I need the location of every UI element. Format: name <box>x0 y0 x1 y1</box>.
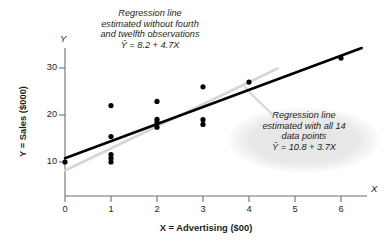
data-point <box>154 120 159 125</box>
data-point <box>108 134 113 139</box>
data-point <box>200 117 205 122</box>
x-tick-label-2: 2 <box>147 204 167 214</box>
data-point <box>200 122 205 127</box>
y-tick-label-20: 20 <box>37 109 57 119</box>
data-point <box>200 84 205 89</box>
data-point <box>246 80 251 85</box>
annotation-callout: Regression line estimated with all 14 da… <box>236 110 372 153</box>
y-axis-title: Y = Sales ($000) <box>17 62 28 182</box>
x-tick-label-3: 3 <box>193 204 213 214</box>
annotation-top: Regression line estimated without fourth… <box>74 8 226 51</box>
data-point <box>338 56 343 61</box>
x-tick-label-5: 5 <box>285 204 305 214</box>
y-tick-label-10: 10 <box>37 156 57 166</box>
x-tick-label-6: 6 <box>331 204 351 214</box>
data-point <box>108 159 113 164</box>
data-point <box>108 103 113 108</box>
data-point <box>154 125 159 130</box>
x-axis-letter: X <box>371 183 377 194</box>
x-axis-title: X = Advertising ($00) <box>96 222 316 233</box>
x-tick-label-4: 4 <box>239 204 259 214</box>
y-axis-letter: Y <box>60 33 66 44</box>
data-point <box>62 159 67 164</box>
x-tick-label-1: 1 <box>101 204 121 214</box>
x-tick-label-0: 0 <box>55 204 75 214</box>
data-point <box>154 99 159 104</box>
regression-scatter-figure: Regression line estimated without fourth… <box>0 0 387 241</box>
y-tick-label-30: 30 <box>37 62 57 72</box>
